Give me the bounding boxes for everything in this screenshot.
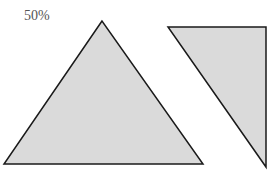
isosceles-triangle (4, 21, 203, 164)
diagram: 50% (0, 0, 269, 170)
triangles-figure (0, 0, 269, 170)
